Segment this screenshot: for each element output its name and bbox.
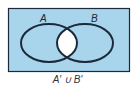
set-b-label: B — [91, 13, 98, 24]
set-a-label: A — [39, 13, 47, 24]
diagram-caption: A′ ∪ B′ — [0, 74, 135, 85]
